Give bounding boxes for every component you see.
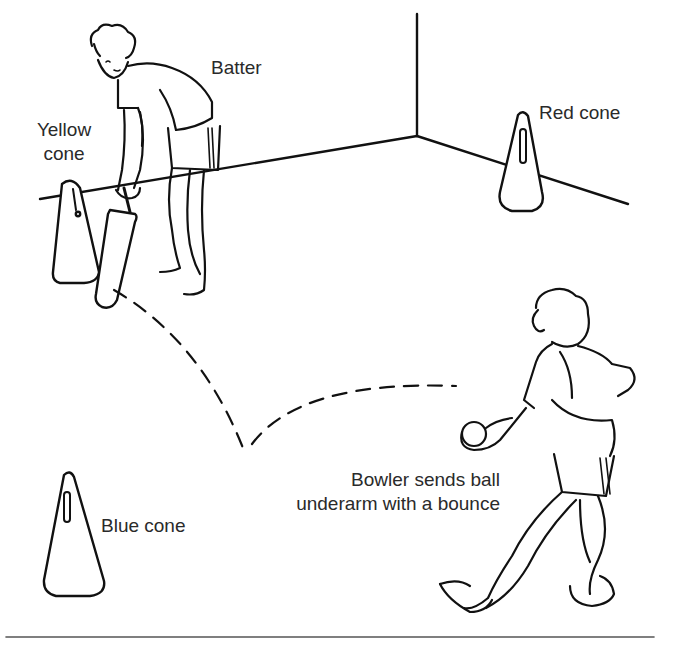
red-cone-icon xyxy=(500,112,543,211)
yellow-cone-label-line2: cone xyxy=(30,142,98,166)
red-cone-label: Red cone xyxy=(539,101,620,125)
bowler-figure xyxy=(440,289,635,612)
yellow-cone-icon xyxy=(53,181,99,283)
bowler-label: Bowler sends ball underarm with a bounce xyxy=(250,468,500,516)
diagram-canvas: Batter Yellow cone Red cone Blue cone Bo… xyxy=(0,0,678,654)
bowler-label-line2: underarm with a bounce xyxy=(250,492,500,516)
illustration xyxy=(0,0,678,654)
cricket-bat-icon xyxy=(96,188,137,308)
ball-trajectory xyxy=(114,290,456,448)
blue-cone-label: Blue cone xyxy=(101,514,186,538)
blue-cone-icon xyxy=(44,472,104,596)
yellow-cone-label: Yellow cone xyxy=(30,118,98,166)
bowler-label-line1: Bowler sends ball xyxy=(250,468,500,492)
batter-label: Batter xyxy=(211,56,262,80)
yellow-cone-label-line1: Yellow xyxy=(30,118,98,142)
